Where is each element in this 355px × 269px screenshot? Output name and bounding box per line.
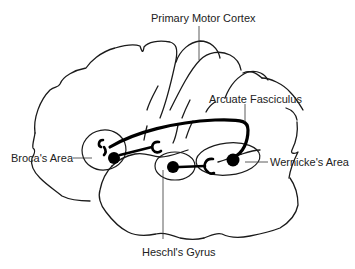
brocas-area-region (79, 126, 129, 173)
wernicke-neuron (227, 154, 240, 167)
label-heschls-gyrus: Heschl's Gyrus (142, 246, 216, 258)
label-primary-motor-cortex: Primary Motor Cortex (151, 12, 256, 24)
label-wernickes-area: Wernicke's Area (270, 156, 350, 168)
brain-language-diagram: Primary Motor Cortex Arcuate Fasciculus … (0, 0, 355, 269)
label-arcuate-fasciculus: Arcuate Fasciculus (209, 93, 302, 105)
label-brocas-area: Broca's Area (11, 152, 74, 164)
broca-neuron (99, 140, 161, 164)
brain-outline (31, 41, 303, 240)
heschl-neuron (167, 159, 214, 174)
